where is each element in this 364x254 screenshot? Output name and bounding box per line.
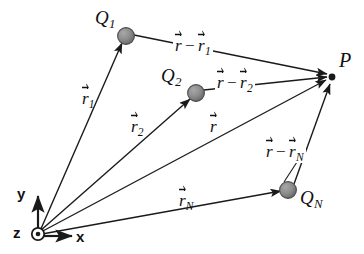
axis-label-y: y [17, 186, 25, 201]
vector-diagram-figure: Q1 Q2 QN P r 1 r 2 r r N r − r 1 r [0, 0, 364, 254]
charge-sphere-Q1 [118, 28, 135, 45]
axis-label-x: x [76, 229, 84, 244]
vector-label-r-minus-r1: r − r 1 [173, 37, 213, 57]
vector-label-r: r [210, 118, 217, 135]
z-axis-center-dot [36, 232, 41, 237]
label-leader-line-rN [284, 162, 297, 182]
vector-r-minus-rN-line [294, 84, 330, 184]
charge-sphere-Q2 [188, 85, 205, 102]
charge-sphere-QN [280, 182, 297, 199]
vector-label-rN: r N [179, 192, 194, 212]
charge-label-Q2: Q2 [161, 66, 181, 89]
vector-label-r-minus-rN: r − r N [264, 143, 306, 163]
vector-label-r2: r 2 [131, 118, 144, 138]
vector-r1-line [40, 43, 122, 231]
charge-label-Q1: Q1 [95, 8, 115, 31]
vector-label-r-minus-r2: r − r 2 [215, 74, 255, 94]
field-point-marker [329, 74, 336, 81]
field-point-label-P: P [339, 50, 351, 70]
charge-label-QN: QN [300, 188, 323, 211]
axis-label-z: z [13, 225, 21, 240]
vector-label-r1: r 1 [82, 90, 95, 110]
